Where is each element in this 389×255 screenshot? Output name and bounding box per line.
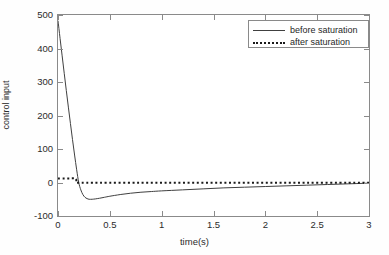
x-axis-tick <box>265 211 266 216</box>
y-axis-tick <box>364 49 369 50</box>
y-axis-tick <box>58 82 63 83</box>
y-axis-tick <box>364 149 369 150</box>
y-axis-tick <box>364 183 369 184</box>
x-tick-label: 3 <box>354 219 384 230</box>
x-tick-label: 0.5 <box>95 219 125 230</box>
x-axis-tick <box>58 211 59 216</box>
x-tick-label: 2 <box>250 219 280 230</box>
y-tick-label: 300 <box>23 76 53 87</box>
legend-line-solid-icon <box>253 26 285 34</box>
y-axis-tick <box>58 149 63 150</box>
y-axis-tick <box>364 216 369 217</box>
legend-item-before-saturation[interactable]: before saturation <box>253 24 364 35</box>
x-tick-label: 1.5 <box>199 219 229 230</box>
x-axis-tick <box>317 211 318 216</box>
y-tick-label: 100 <box>23 143 53 154</box>
x-axis-tick <box>162 211 163 216</box>
y-axis-tick <box>364 116 369 117</box>
y-tick-label: 0 <box>23 177 53 188</box>
x-axis-title: time(s) <box>0 236 389 247</box>
y-axis-title: control input <box>1 80 11 129</box>
figure-container: -1000100200300400500 00.511.522.53 contr… <box>0 0 389 255</box>
x-tick-label: 1 <box>147 219 177 230</box>
legend-label: before saturation <box>290 25 358 35</box>
x-axis-tick <box>162 15 163 20</box>
y-tick-label: 400 <box>23 43 53 54</box>
y-tick-label: 200 <box>23 110 53 121</box>
x-axis-tick <box>110 15 111 20</box>
y-axis-tick <box>58 49 63 50</box>
y-axis-tick <box>58 216 63 217</box>
y-axis-tick <box>58 183 63 184</box>
x-axis-tick <box>110 211 111 216</box>
legend-label: after saturation <box>290 37 350 47</box>
x-tick-label: 2.5 <box>302 219 332 230</box>
x-tick-label: 0 <box>43 219 73 230</box>
legend-line-dotted-icon <box>253 38 285 46</box>
series-line-after-saturation <box>58 178 369 183</box>
legend-box: before saturation after saturation <box>248 20 369 48</box>
x-axis-tick <box>214 211 215 216</box>
y-axis-tick <box>58 116 63 117</box>
x-axis-tick <box>369 15 370 20</box>
x-axis-tick <box>58 15 59 20</box>
x-axis-tick <box>369 211 370 216</box>
x-axis-tick <box>214 15 215 20</box>
y-axis-tick <box>364 82 369 83</box>
legend-item-after-saturation[interactable]: after saturation <box>253 36 364 47</box>
y-tick-label: 500 <box>23 9 53 20</box>
